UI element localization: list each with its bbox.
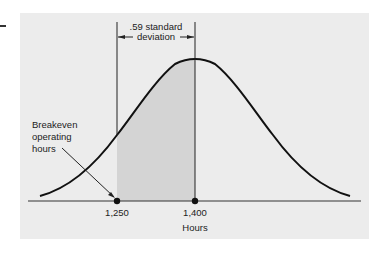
breakeven-label-line2: operating xyxy=(32,131,72,142)
arrowhead-right-icon xyxy=(187,35,194,39)
normal-distribution-diagram: .59 standard deviation Breakeven operati… xyxy=(0,0,381,253)
point-1250 xyxy=(114,198,120,204)
x-axis-label: Hours xyxy=(182,222,208,233)
arrowhead-left-icon xyxy=(118,35,125,39)
breakeven-label-line1: Breakeven xyxy=(32,119,77,130)
point-1400 xyxy=(192,198,198,204)
breakeven-pointer xyxy=(62,148,114,197)
tick-label-1250: 1,250 xyxy=(105,207,129,218)
breakeven-label-line3: hours xyxy=(32,143,56,154)
shaded-area xyxy=(117,59,195,201)
tick-label-1400: 1,400 xyxy=(183,207,207,218)
annotation-line2: deviation xyxy=(137,31,175,42)
